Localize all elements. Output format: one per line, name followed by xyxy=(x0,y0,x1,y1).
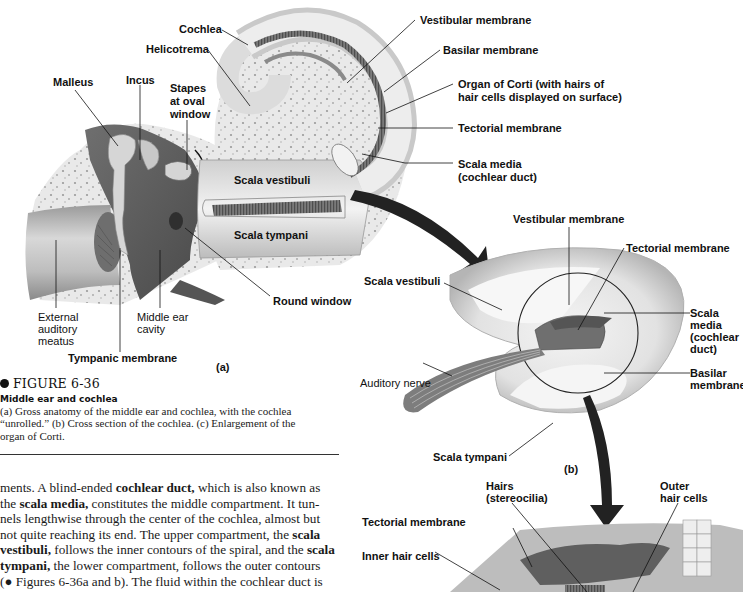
body-line: tympani, the lower compartment, follows … xyxy=(0,558,372,574)
label-scala-tympani-a: Scala tympani xyxy=(234,229,308,241)
caption-divider xyxy=(0,454,339,455)
panel-a-letter: (a) xyxy=(216,361,229,373)
figure-number: FIGURE 6-36 xyxy=(0,376,100,391)
label-vestibular-membrane-a: Vestibular membrane xyxy=(420,14,531,26)
label-scala-media-b-line1: Scala xyxy=(690,307,719,319)
label-outer-hair-cells-line2: hair cells xyxy=(660,492,708,504)
body-paragraph: ments. A blind-ended cochlear duct, whic… xyxy=(0,480,372,589)
body-line: nels lengthwise through the center of th… xyxy=(0,511,372,527)
label-organ-of-corti-line1: Organ of Corti (with hairs of xyxy=(458,78,604,90)
panel-b-letter: (b) xyxy=(564,463,578,475)
key-term: scala xyxy=(292,527,320,542)
label-scala-media-a-line1: Scala media xyxy=(458,158,522,170)
key-term: scala media, xyxy=(19,496,88,511)
label-incus: Incus xyxy=(126,74,155,86)
label-scala-media-b-line2: media xyxy=(690,319,722,331)
key-term: scala xyxy=(307,542,335,557)
label-malleus: Malleus xyxy=(53,76,93,88)
label-scala-tympani-b: Scala tympani xyxy=(433,451,507,463)
body-line: vestibuli, follows the inner contours of… xyxy=(0,542,372,558)
label-middle-ear-line2: cavity xyxy=(137,323,165,335)
body-line: (● Figures 6-36a and b). The fluid withi… xyxy=(0,574,372,590)
key-term: vestibuli, xyxy=(0,542,51,557)
caption-line: “unrolled.” (b) Cross section of the coc… xyxy=(0,417,340,429)
label-cochlea: Cochlea xyxy=(179,23,222,35)
bullet-icon xyxy=(0,379,9,388)
key-term: tympani, xyxy=(0,558,50,573)
label-outer-hair-cells-line1: Outer xyxy=(660,480,689,492)
label-helicotrema: Helicotrema xyxy=(146,43,209,55)
figure-number-text: FIGURE 6-36 xyxy=(13,376,100,391)
label-external-line2: auditory xyxy=(38,323,77,335)
label-vestibular-membrane-b: Vestibular membrane xyxy=(513,213,624,225)
label-basilar-membrane-a: Basilar membrane xyxy=(443,44,538,56)
label-scala-vestibuli-b: Scala vestibuli xyxy=(364,275,440,287)
label-stapes-line1: Stapes xyxy=(170,82,206,94)
body-line: the scala media, constitutes the middle … xyxy=(0,496,372,512)
label-middle-ear-line1: Middle ear xyxy=(137,311,188,323)
body-line: not quite reaching its end. The upper co… xyxy=(0,527,372,543)
panel-a-drawing xyxy=(25,19,490,305)
label-external-line1: External xyxy=(38,311,78,323)
label-hairs-line2: (stereocilia) xyxy=(486,492,548,504)
label-organ-of-corti-line2: hair cells displayed on surface) xyxy=(458,91,622,103)
label-inner-hair-cells: Inner hair cells xyxy=(362,550,440,562)
label-tectorial-membrane-b: Tectorial membrane xyxy=(626,242,730,254)
label-tectorial-membrane-c: Tectorial membrane xyxy=(362,516,466,528)
caption-line: (a) Gross anatomy of the middle ear and … xyxy=(0,405,340,417)
label-tectorial-membrane-a: Tectorial membrane xyxy=(458,122,562,134)
label-scala-media-b-line3: (cochlear xyxy=(690,331,739,343)
key-term: cochlear duct, xyxy=(116,480,195,495)
figure-subtitle: Middle ear and cochlea xyxy=(0,394,118,404)
panel-c-drawing xyxy=(450,520,743,592)
label-basilar-b-line1: Basilar xyxy=(690,367,727,379)
label-scala-media-a-line2: (cochlear duct) xyxy=(458,171,537,183)
label-hairs-line1: Hairs xyxy=(486,480,514,492)
body-line: ments. A blind-ended cochlear duct, whic… xyxy=(0,480,372,496)
label-basilar-b-line2: membrane xyxy=(690,379,743,391)
figure-caption: (a) Gross anatomy of the middle ear and … xyxy=(0,405,340,442)
caption-line: organ of Corti. xyxy=(0,430,340,442)
label-round-window: Round window xyxy=(273,295,351,307)
label-auditory-nerve: Auditory nerve xyxy=(360,377,431,389)
label-stapes-line2: at oval xyxy=(170,95,205,107)
label-scala-media-b-line4: duct) xyxy=(690,343,717,355)
label-scala-vestibuli-a: Scala vestibuli xyxy=(234,174,310,186)
label-external-line3: meatus xyxy=(38,335,74,347)
label-tympanic-membrane: Tympanic membrane xyxy=(68,352,177,364)
panel-b-drawing xyxy=(403,248,684,528)
label-stapes-line3: window xyxy=(170,108,210,120)
